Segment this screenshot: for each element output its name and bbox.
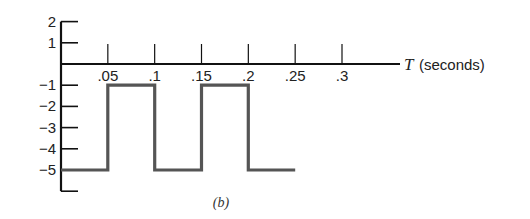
y-tick-label: −2 — [39, 97, 56, 114]
figure-caption: (b) — [213, 195, 230, 211]
x-tick-label: .25 — [285, 67, 306, 84]
x-tick-label: .3 — [336, 67, 349, 84]
axes — [61, 22, 400, 192]
y-tick-label: −5 — [39, 161, 56, 178]
y-tick-label: 2 — [48, 13, 56, 30]
square-wave-line — [61, 85, 295, 170]
y-tick-label: −4 — [39, 140, 56, 157]
y-tick-label: −1 — [39, 76, 56, 93]
x-axis-variable: T — [404, 55, 415, 74]
x-tick-label: .05 — [97, 67, 118, 84]
waveform-trace — [61, 85, 295, 170]
y-tick-label: −3 — [39, 119, 56, 136]
x-axis-unit: (seconds) — [419, 56, 485, 73]
square-wave-figure: 21−1−2−3−4−5.05.1.15.2.25.3 T (seconds) … — [0, 0, 530, 219]
y-tick-label: 1 — [48, 34, 56, 51]
x-tick-label: .15 — [191, 67, 212, 84]
x-tick-label: .1 — [148, 67, 161, 84]
tick-labels: 21−1−2−3−4−5.05.1.15.2.25.3 — [39, 13, 348, 178]
x-tick-label: .2 — [242, 67, 255, 84]
